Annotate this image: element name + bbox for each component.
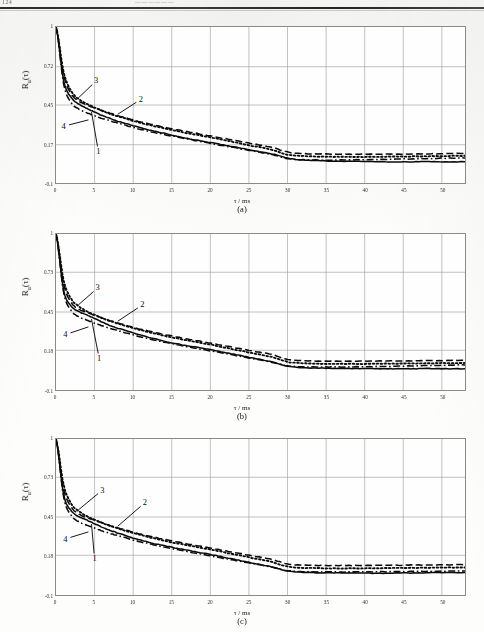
curve-number-3: 3 — [100, 485, 104, 495]
x-tick-label: 10 — [130, 394, 135, 400]
x-tick-label: 5 — [92, 394, 95, 400]
leader-line-3 — [78, 494, 98, 510]
y-tick-labels-c: 10.730.450.18-0.1 — [24, 438, 53, 596]
x-tick-label: 20 — [207, 599, 212, 605]
x-tick-label: 35 — [324, 599, 329, 605]
curve-1 — [56, 27, 465, 162]
curve-2 — [56, 439, 465, 566]
panel-caption-b: (b) — [0, 411, 484, 421]
x-tick-label: 0 — [54, 394, 57, 400]
curve-number-4: 4 — [63, 329, 68, 339]
x-tick-label: 5 — [92, 599, 95, 605]
y-tick-labels-a: 10.720.450.17-0.1 — [24, 26, 53, 184]
leader-line-4 — [70, 532, 88, 537]
x-tick-label: 15 — [169, 187, 174, 193]
y-tick-label: 1 — [50, 230, 53, 236]
curve-number-4: 4 — [62, 121, 67, 131]
curve-4 — [56, 27, 465, 160]
x-tick-label: 40 — [363, 599, 368, 605]
x-tick-label: 25 — [246, 187, 251, 193]
x-tick-label: 45 — [401, 187, 406, 193]
x-tick-label: 25 — [246, 599, 251, 605]
x-tick-label: 0 — [54, 187, 57, 193]
x-tick-labels-b: 05101520253035404550 — [55, 394, 466, 404]
plot-area-b: 3241 — [55, 233, 466, 391]
curve-number-1: 1 — [97, 353, 101, 363]
curve-2 — [56, 27, 465, 154]
y-tick-label: 0.18 — [44, 348, 53, 354]
curve-1 — [56, 439, 465, 573]
y-tick-label: 0.72 — [44, 63, 53, 69]
curve-4 — [56, 234, 465, 367]
y-tick-label: 0.45 — [44, 514, 53, 520]
leader-line-1 — [91, 524, 94, 553]
scanned-page: 124 —————— Ru(τ) 10.720.450.17-0.1 3241 … — [0, 0, 484, 632]
running-title: —————— — [135, 0, 175, 5]
x-tick-labels-c: 05101520253035404550 — [55, 599, 466, 609]
leader-line-4 — [69, 120, 88, 125]
panel-caption-a: (a) — [0, 204, 484, 214]
plot-area-c: 3241 — [55, 438, 466, 596]
x-tick-label: 35 — [324, 394, 329, 400]
plot-area-a: 3241 — [55, 26, 466, 184]
x-tick-labels-a: 05101520253035404550 — [55, 187, 466, 197]
curve-number-2: 2 — [143, 497, 147, 507]
curve-3 — [56, 234, 465, 364]
curve-number-1: 1 — [92, 553, 96, 563]
y-tick-label: 0.17 — [44, 142, 53, 148]
leader-line-3 — [78, 292, 93, 305]
x-tick-label: 50 — [440, 187, 445, 193]
x-tick-label: 10 — [130, 187, 135, 193]
panel-caption-c: (c) — [0, 616, 484, 626]
plot-svg-c: 3241 — [56, 439, 465, 595]
curve-number-1: 1 — [96, 146, 100, 156]
x-tick-label: 15 — [169, 599, 174, 605]
x-tick-label: 0 — [54, 599, 57, 605]
y-tick-label: 0.18 — [44, 553, 53, 559]
leader-line-3 — [78, 85, 92, 98]
header-rule-thin — [0, 10, 484, 11]
page-header: 124 —————— — [0, 0, 484, 12]
curve-1 — [56, 234, 465, 369]
x-tick-label: 30 — [285, 599, 290, 605]
x-tick-label: 30 — [285, 394, 290, 400]
header-rule — [0, 7, 484, 9]
curve-number-3: 3 — [96, 282, 100, 292]
x-tick-label: 5 — [92, 187, 95, 193]
curve-number-2: 2 — [139, 94, 143, 104]
curve-number-3: 3 — [94, 75, 98, 85]
curve-number-4: 4 — [63, 534, 68, 544]
page-folio: 124 — [2, 0, 12, 5]
y-tick-label: -0.1 — [45, 388, 53, 394]
y-tick-label: 0.45 — [44, 309, 53, 315]
curve-3 — [56, 439, 465, 569]
leader-line-2 — [118, 308, 138, 321]
curve-4 — [56, 439, 465, 572]
x-tick-label: 45 — [401, 394, 406, 400]
curve-3 — [56, 27, 465, 157]
y-tick-label: -0.1 — [45, 593, 53, 599]
y-tick-label: 1 — [50, 435, 53, 441]
y-tick-label: 0.73 — [44, 269, 53, 275]
x-tick-label: 40 — [363, 394, 368, 400]
figure-panel-b: Ru(τ) 10.730.450.18-0.1 3241 05101520253… — [0, 219, 484, 424]
x-tick-label: 40 — [363, 187, 368, 193]
plot-svg-b: 3241 — [56, 234, 465, 390]
x-tick-label: 35 — [324, 187, 329, 193]
y-tick-label: 1 — [50, 23, 53, 29]
y-tick-labels-b: 10.730.450.18-0.1 — [24, 233, 53, 391]
x-tick-label: 50 — [440, 599, 445, 605]
x-tick-label: 20 — [207, 187, 212, 193]
x-tick-label: 10 — [130, 599, 135, 605]
x-tick-label: 50 — [440, 394, 445, 400]
plot-svg-a: 3241 — [56, 27, 465, 183]
leader-line-4 — [70, 327, 88, 333]
y-tick-label: 0.73 — [44, 474, 53, 480]
y-tick-label: 0.45 — [44, 102, 53, 108]
leader-line-2 — [118, 506, 141, 526]
curve-number-2: 2 — [140, 300, 144, 310]
x-tick-label: 45 — [401, 599, 406, 605]
leader-line-2 — [118, 102, 137, 114]
x-tick-label: 15 — [169, 394, 174, 400]
figure-panel-c: Ru(τ) 10.730.450.18-0.1 3241 05101520253… — [0, 424, 484, 629]
